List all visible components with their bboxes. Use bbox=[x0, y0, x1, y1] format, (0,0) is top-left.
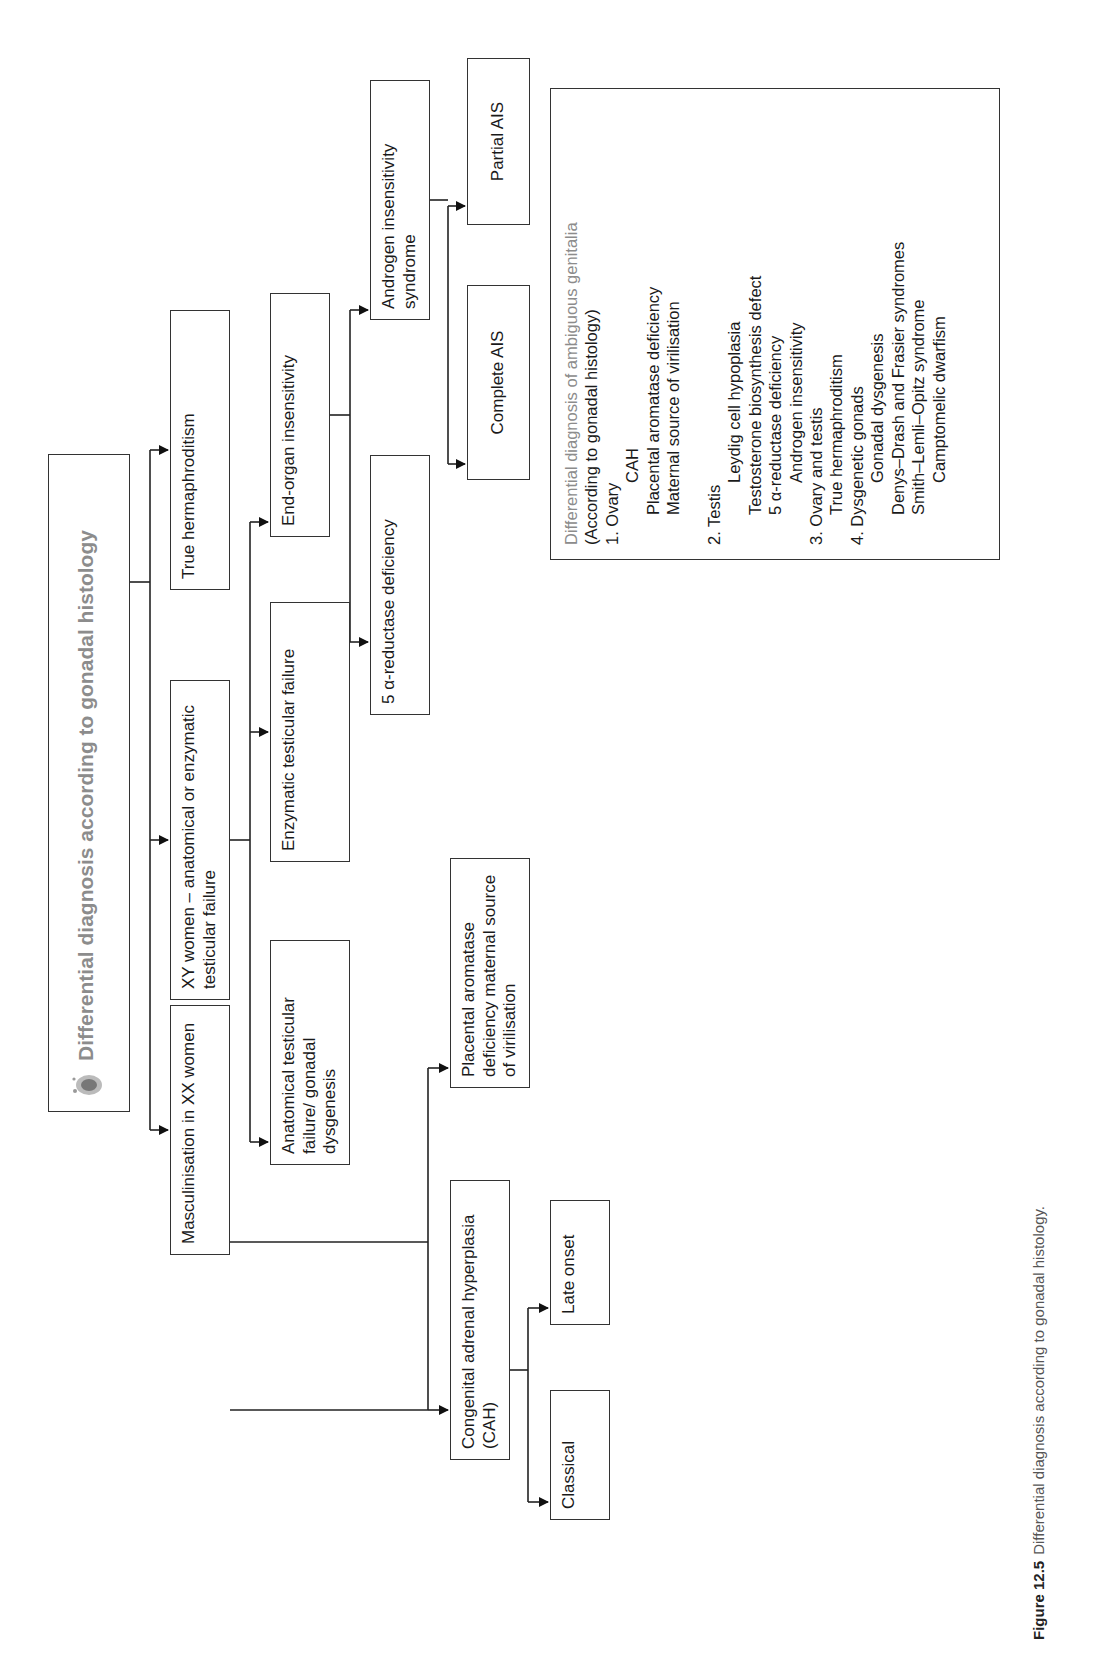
figure-caption-text: Differential diagnosis according to gona… bbox=[1030, 1206, 1047, 1555]
legend-subtitle: (According to gonadal histology) bbox=[581, 103, 601, 545]
legend-item: Smith–Lemli–Opitz syndrome bbox=[908, 103, 928, 545]
root-box: Differential diagnosis according to gona… bbox=[48, 454, 130, 1112]
fetus-icon bbox=[69, 1071, 105, 1099]
node-true-hermaphroditism: True hermaphroditism bbox=[170, 310, 230, 590]
node-placental-aromatase: Placental aromatase deficiency maternal … bbox=[450, 858, 530, 1088]
legend-group-heading: 2. Testis bbox=[704, 103, 724, 545]
legend-item: Camptomelic dwarfism bbox=[929, 103, 949, 545]
node-end-organ-insensitivity: End-organ insensitivity bbox=[270, 293, 330, 537]
legend-item: Placental aromatase deficiency bbox=[643, 103, 663, 545]
legend-item: Maternal source of virilisation bbox=[663, 103, 683, 545]
legend-item: Testosterone biosynthesis defect bbox=[745, 103, 765, 545]
node-complete-ais: Complete AIS bbox=[467, 285, 530, 480]
node-cah: Congenital adrenal hyperplasia (CAH) bbox=[450, 1180, 510, 1460]
legend-item: 5 α-reductase deficiency bbox=[765, 103, 785, 545]
diagram-canvas: Differential diagnosis according to gona… bbox=[0, 0, 1102, 1662]
legend-item: True hermaphroditism bbox=[826, 103, 846, 545]
legend-item: Androgen insensitivity bbox=[786, 103, 806, 545]
legend-group-heading: 1. Ovary bbox=[602, 103, 622, 545]
node-xy-women: XY women – anatomical or enzymatic testi… bbox=[170, 680, 230, 1000]
node-partial-ais: Partial AIS bbox=[467, 58, 530, 225]
legend-group-heading: 4. Dysgenetic gonads bbox=[847, 103, 867, 545]
node-late-onset: Late onset bbox=[550, 1200, 610, 1325]
legend-box: Differential diagnosis of ambiguous geni… bbox=[550, 88, 1000, 560]
legend-item: Gonadal dysgenesis bbox=[867, 103, 887, 545]
root-title: Differential diagnosis according to gona… bbox=[73, 530, 99, 1061]
legend-title: Differential diagnosis of ambiguous geni… bbox=[561, 103, 581, 545]
figure-caption: Figure 12.5Differential diagnosis accord… bbox=[1030, 1206, 1047, 1640]
node-5-alpha-reductase: 5 α-reductase deficiency bbox=[370, 455, 430, 715]
node-anatomical-testicular-failure: Anatomical testicular failure/ gonadal d… bbox=[270, 940, 350, 1165]
node-classical: Classical bbox=[550, 1390, 610, 1520]
figure-label: Figure 12.5 bbox=[1030, 1561, 1047, 1640]
node-androgen-insensitivity: Androgen insensitivity syndrome bbox=[370, 80, 430, 320]
legend-item: CAH bbox=[622, 103, 642, 545]
legend-item: Leydig cell hypoplasia bbox=[724, 103, 744, 545]
node-enzymatic-testicular-failure: Enzymatic testicular failure bbox=[270, 602, 350, 862]
legend-item: Denys–Drash and Frasier syndromes bbox=[888, 103, 908, 545]
node-masculinisation-xx: Masculinisation in XX women bbox=[170, 1005, 230, 1255]
legend-group-heading: 3. Ovary and testis bbox=[806, 103, 826, 545]
